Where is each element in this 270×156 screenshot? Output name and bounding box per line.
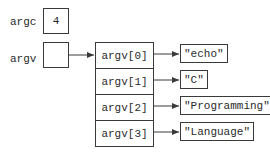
pointer-arrows (0, 0, 270, 156)
